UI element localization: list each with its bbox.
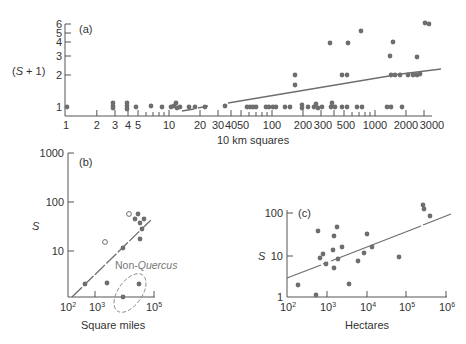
b-annotation: Non-Quercus <box>115 259 178 271</box>
svg-text:2: 2 <box>94 119 100 131</box>
svg-text:102: 102 <box>280 301 296 313</box>
svg-text:3000: 3000 <box>420 119 444 131</box>
svg-text:1000: 1000 <box>363 119 387 131</box>
a-fit-line-dash <box>182 109 194 111</box>
figure: 6 5 4 3 2 1 (a) (S + 1) <box>0 0 466 344</box>
panel-a-label: (a) <box>79 23 92 35</box>
panel-b: 1000 100 10 (b) S 102 103 105 Square mil… <box>32 147 178 331</box>
a-points <box>65 21 432 112</box>
a-x-ticks <box>97 110 424 116</box>
a-ytick-1: 1 <box>56 101 62 113</box>
c-fit-line <box>287 265 321 278</box>
svg-text:10: 10 <box>163 119 175 131</box>
panel-c-label: (c) <box>298 207 311 219</box>
svg-text:200: 200 <box>294 119 312 131</box>
c-ytick-10: 10 <box>271 250 283 262</box>
a-ytick-4: 4 <box>56 36 62 48</box>
svg-text:20: 20 <box>194 119 206 131</box>
a-y-axis-label: (S + 1) <box>12 65 45 77</box>
svg-text:104: 104 <box>360 301 376 313</box>
svg-text:105: 105 <box>399 301 415 313</box>
c-x-tick-labels: 102 103 104 105 106 <box>280 301 455 313</box>
svg-text:2000: 2000 <box>394 119 418 131</box>
svg-text:5: 5 <box>135 119 141 131</box>
c-x-axis-label: Hectares <box>345 319 390 331</box>
svg-text:106: 106 <box>439 301 455 313</box>
svg-text:30: 30 <box>212 119 224 131</box>
svg-text:300: 300 <box>314 119 332 131</box>
svg-text:105: 105 <box>146 301 162 313</box>
panel-a: 6 5 4 3 2 1 (a) (S + 1) <box>12 18 444 146</box>
svg-text:3: 3 <box>112 119 118 131</box>
svg-text:1: 1 <box>63 119 69 131</box>
b-y-axis-label: S <box>32 220 40 232</box>
b-ytick-1000: 1000 <box>40 147 64 159</box>
panel-b-label: (b) <box>79 156 92 168</box>
b-ytick-10: 10 <box>52 245 64 257</box>
b-points-open <box>103 212 132 245</box>
svg-text:40: 40 <box>225 119 237 131</box>
c-y-axis-label: S <box>258 250 266 262</box>
a-fit-line <box>228 76 389 103</box>
a-x-tick-labels: 1 2 3 4 5 10 20 30 40 50 100 200 300 500… <box>63 119 444 131</box>
a-x-axis-label: 10 km squares <box>217 134 290 146</box>
a-ytick-2: 2 <box>56 69 62 81</box>
svg-text:103: 103 <box>320 301 336 313</box>
c-points <box>296 203 433 298</box>
svg-text:4: 4 <box>125 119 131 131</box>
a-ytick-3: 3 <box>56 50 62 62</box>
svg-text:103: 103 <box>89 301 105 313</box>
svg-text:102: 102 <box>60 301 76 313</box>
b-ytick-100: 100 <box>46 196 64 208</box>
panel-c: 100 10 1 (c) S 102 103 104 105 106 Hecta… <box>258 203 455 331</box>
b-x-axis-label: Square miles <box>81 319 146 331</box>
b-x-tick-labels: 102 103 105 <box>60 301 162 313</box>
svg-text:500: 500 <box>337 119 355 131</box>
svg-text:50: 50 <box>237 119 249 131</box>
svg-text:100: 100 <box>263 119 281 131</box>
c-ytick-100: 100 <box>265 207 283 219</box>
